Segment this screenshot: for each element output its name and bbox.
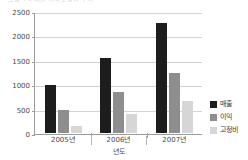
legend-swatch-icon xyxy=(210,114,217,121)
legend-item[interactable]: 고정비 xyxy=(210,125,238,136)
y-axis-tick-label: 0 xyxy=(26,132,30,139)
y-axis-tick xyxy=(32,37,35,38)
bar xyxy=(126,114,137,133)
y-axis-tick-label: 2000 xyxy=(12,34,30,41)
bar xyxy=(156,23,167,133)
bar xyxy=(100,58,111,133)
legend-swatch-icon xyxy=(210,127,217,134)
x-axis-separator xyxy=(146,136,147,145)
y-axis-tick xyxy=(32,62,35,63)
legend-item[interactable]: 이익 xyxy=(210,112,238,123)
bar xyxy=(113,92,124,133)
bars-layer xyxy=(36,13,202,133)
y-axis-tick xyxy=(32,111,35,112)
x-axis-title: 년도 xyxy=(35,148,202,156)
legend: 매출이익고정비 xyxy=(210,99,238,138)
x-axis-tick-label: 2005년 xyxy=(35,136,91,145)
legend-label: 고정비 xyxy=(220,127,238,134)
bar-group xyxy=(91,13,146,133)
y-axis-tick xyxy=(32,86,35,87)
bar xyxy=(58,110,69,133)
bar-group xyxy=(36,13,91,133)
legend-swatch-icon xyxy=(210,101,217,108)
x-axis-tick-label: 2006년 xyxy=(91,136,147,145)
legend-label: 이익 xyxy=(220,114,232,121)
x-axis-tick-label: 2007년 xyxy=(146,136,202,145)
y-axis-tick xyxy=(32,13,35,14)
bar xyxy=(45,85,56,133)
plot-area: 05001000150020002500 xyxy=(34,13,202,135)
y-axis-tick-label: 1000 xyxy=(12,83,30,90)
legend-item[interactable]: 매출 xyxy=(210,99,238,110)
y-axis-tick-label: 500 xyxy=(17,107,30,114)
bar-chart-figure: 그림 4-3 매출·이익·고정비 추이 05001000150020002500… xyxy=(0,0,248,160)
x-axis-separator xyxy=(91,136,92,145)
bar xyxy=(169,73,180,133)
bar xyxy=(71,126,82,133)
y-axis-tick-label: 1500 xyxy=(12,58,30,65)
cropped-title-text: 그림 4-3 매출·이익·고정비 추이 xyxy=(8,0,128,2)
cropped-title-fragment: 그림 4-3 매출·이익·고정비 추이 xyxy=(8,0,128,6)
bar xyxy=(182,101,193,133)
x-axis-tick-labels: 2005년2006년2007년 xyxy=(35,136,202,145)
bar-group xyxy=(147,13,202,133)
legend-label: 매출 xyxy=(220,101,232,108)
y-axis-tick-label: 2500 xyxy=(12,10,30,17)
